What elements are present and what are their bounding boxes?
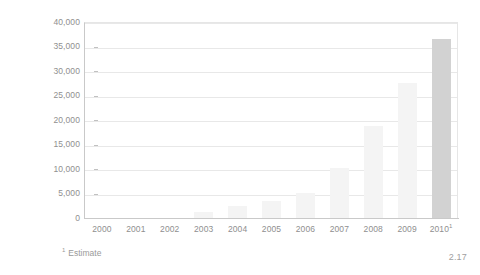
bar (194, 212, 213, 218)
y-axis-tick-label: 40,000 (16, 18, 80, 27)
y-axis-tick-label: 5,000 (16, 189, 80, 198)
bar (262, 201, 281, 218)
y-axis-tick-label: 35,000 (16, 42, 80, 51)
y-axis-tick-label: 0 (16, 214, 80, 223)
bar (432, 39, 451, 218)
y-axis-tick-label: 10,000 (16, 165, 80, 174)
bar (330, 168, 349, 218)
y-axis-tick-label: 30,000 (16, 67, 80, 76)
x-axis-line (84, 218, 459, 219)
bar (296, 193, 315, 218)
bars-layer (85, 22, 458, 218)
bar (398, 83, 417, 218)
footnote-marker: 1 (62, 247, 65, 253)
corner-note: 2.17 (449, 252, 467, 262)
x-axis-tick-label: 20101 (421, 224, 461, 234)
y-axis-tick-label: 15,000 (16, 140, 80, 149)
y-axis-tick-label: 20,000 (16, 116, 80, 125)
bar-chart-figure: Registrations 05,00010,00015,00020,00025… (0, 0, 480, 275)
y-axis-tick-label: 25,000 (16, 91, 80, 100)
footnote: 1Estimate (62, 248, 101, 258)
bar (364, 126, 383, 218)
y-axis-tick-labels: 05,00010,00015,00020,00025,00030,00035,0… (14, 0, 80, 275)
bar (228, 206, 247, 218)
footnote-text: Estimate (68, 248, 101, 258)
